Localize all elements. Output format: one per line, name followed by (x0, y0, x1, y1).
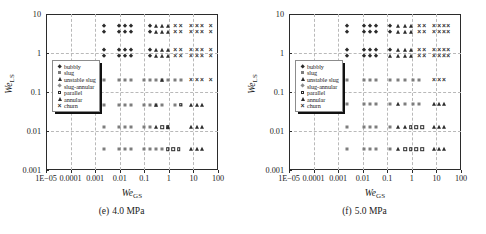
data-point-churn: × (200, 53, 204, 60)
data-point-churn: × (209, 28, 213, 35)
data-point-unstable-slug (160, 24, 164, 28)
y-axis-title-f: WeLS (247, 54, 259, 114)
data-point-slug (418, 79, 421, 82)
y-axis-title-sub-f: LS (251, 74, 259, 83)
data-point-unstable-slug (403, 24, 407, 28)
data-point-slug (117, 79, 120, 82)
panel-caption-id-e: (e) (99, 206, 110, 216)
data-point-slug (148, 148, 151, 151)
data-point-slug (369, 79, 372, 82)
y-tick-label: 0.1 (31, 88, 41, 97)
data-point-slug (117, 126, 120, 129)
x-tick-label: 1E−05 (35, 174, 56, 183)
data-point-annular (437, 147, 441, 151)
data-point-unstable-slug (396, 48, 400, 52)
x-tick-label: 10 (189, 174, 197, 183)
data-point-slug (375, 79, 378, 82)
data-point-slug (143, 103, 146, 106)
y-tick-label: 1 (280, 49, 284, 58)
x-tick-label: 0.1 (139, 174, 149, 183)
data-point-annular (200, 147, 204, 151)
data-point-slug (345, 126, 348, 129)
data-point-parallel (409, 147, 413, 151)
y-axis-tick (46, 53, 49, 54)
data-point-churn: × (173, 28, 177, 35)
data-point-parallel (404, 147, 408, 151)
y-axis-title-sub-e: LS (8, 74, 16, 83)
data-point-slug (362, 79, 365, 82)
data-point-parallel (420, 125, 424, 129)
legend-e: bubblyslugunstable slugslug-annularparal… (52, 60, 100, 112)
data-point-churn: × (189, 77, 193, 84)
data-point-unstable-slug (166, 54, 170, 58)
y-axis-tick (46, 131, 49, 132)
data-point-slug (375, 126, 378, 129)
x-axis-title-f: WeGS (289, 188, 461, 200)
y-tick-label: 1 (37, 49, 41, 58)
panel-f: ××××××××××××××××××××××××××× 1E−050.00010… (243, 0, 486, 234)
data-point-unstable-slug (154, 30, 158, 34)
data-point-churn: × (432, 77, 436, 84)
cross-x-icon: × (298, 103, 307, 110)
data-point-churn: × (417, 53, 421, 60)
data-point-unstable-slug (396, 54, 400, 58)
panel-caption-id-f: (f) (342, 206, 352, 216)
legend-label: churn (307, 102, 321, 109)
data-point-annular (442, 125, 446, 129)
data-point-unstable-slug (154, 24, 158, 28)
y-tick-label: 0.01 (27, 127, 41, 136)
x-tick-label: 0.001 (86, 174, 104, 183)
legend-item-bubbly: bubbly (55, 63, 96, 70)
data-point-slug (148, 126, 151, 129)
data-point-slug (362, 148, 365, 151)
data-point-unstable-slug (388, 54, 392, 58)
data-point-slug (161, 148, 164, 151)
x-tick-label: 0.01 (356, 174, 370, 183)
data-point-annular (166, 125, 170, 129)
data-point-annular (432, 102, 436, 106)
data-point-annular (189, 103, 193, 107)
data-point-slug (124, 79, 127, 82)
y-axis-tick (289, 53, 292, 54)
data-point-churn: × (195, 53, 199, 60)
data-point-unstable-slug (396, 24, 400, 28)
data-point-unstable-slug (166, 48, 170, 52)
figure-two-panel-flow-regime-map: ×××××××××××××××××××××××××××× 1E−050.0001… (0, 0, 486, 234)
data-point-slug (143, 126, 146, 129)
open-square-icon (298, 89, 307, 96)
filled-triangle-icon (298, 76, 307, 83)
data-point-slug (155, 148, 158, 151)
x-axis-tick (461, 170, 462, 173)
legend-item-bubbly: bubbly (298, 63, 339, 70)
filled-triangle-icon (55, 76, 64, 83)
panel-caption-e: (e)4.0 MPa (0, 206, 243, 216)
data-point-slug (124, 103, 127, 106)
data-point-churn: × (189, 28, 193, 35)
data-point-unstable-slug (160, 54, 164, 58)
gridline-horizontal (46, 131, 218, 132)
data-point-slug (375, 148, 378, 151)
panel-caption-text-f: 5.0 MPa (355, 206, 387, 216)
y-tick-label: 10 (276, 10, 284, 19)
filled-diamond-icon (298, 63, 307, 70)
x-tick-label: 0.001 (329, 174, 347, 183)
x-axis-tick (218, 170, 219, 173)
y-axis-title-e: WeLS (4, 54, 16, 114)
data-point-parallel (414, 125, 418, 129)
data-point-churn: × (446, 53, 450, 60)
data-point-slug (174, 103, 177, 106)
data-point-slug (345, 79, 348, 82)
data-point-annular (195, 125, 199, 129)
x-axis-tick-labels-f: 1E−050.00010.0010.010.1110100 (289, 170, 461, 184)
data-point-annular (396, 147, 400, 151)
data-point-unstable-slug (160, 30, 164, 34)
data-point-annular (403, 125, 407, 129)
data-point-unstable-slug (166, 30, 170, 34)
data-point-churn: × (437, 28, 441, 35)
gray-diamond-icon (55, 83, 64, 90)
data-point-slug (375, 102, 378, 105)
x-tick-label: 0.01 (113, 174, 127, 183)
data-point-unstable-slug (166, 24, 170, 28)
data-point-slug (124, 126, 127, 129)
data-point-slug (397, 79, 400, 82)
